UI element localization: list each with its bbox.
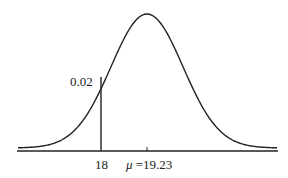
- normal-distribution-chart: 0.02 18 μ =19.23: [0, 0, 288, 178]
- x-mark-label: 18: [95, 158, 108, 171]
- bell-curve: [18, 14, 277, 148]
- density-label: 0.02: [70, 75, 93, 88]
- mean-label: μ =19.23: [126, 158, 172, 171]
- chart-canvas: [0, 0, 288, 178]
- mu-value: =19.23: [133, 157, 173, 172]
